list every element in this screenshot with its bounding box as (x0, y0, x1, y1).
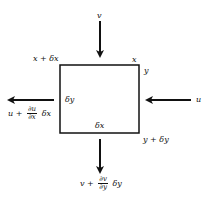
bottom-outflow-suffix: δy (112, 179, 121, 188)
corner-label-top-left: x + δx (33, 55, 59, 63)
right-inflow-label: u (196, 96, 201, 104)
bottom-outflow-prefix: v + (80, 179, 94, 188)
height-label: δy (65, 96, 74, 104)
bottom-outflow-label: v + ∂v ∂y δy (80, 176, 122, 192)
corner-label-y: y (144, 67, 149, 75)
corner-label-bottom-right: y + δy (143, 136, 169, 144)
left-outflow-label: u + ∂u ∂x δx (8, 106, 51, 122)
corner-label-x: x (132, 56, 137, 64)
top-inflow-label: v (97, 12, 102, 20)
partial-u-partial-x: ∂u ∂x (27, 106, 37, 122)
left-outflow-suffix: δx (42, 109, 51, 118)
width-label: δx (95, 122, 104, 130)
partial-v-partial-y: ∂v ∂y (98, 176, 108, 192)
diagram-canvas (0, 0, 207, 202)
left-outflow-prefix: u + (8, 109, 22, 118)
